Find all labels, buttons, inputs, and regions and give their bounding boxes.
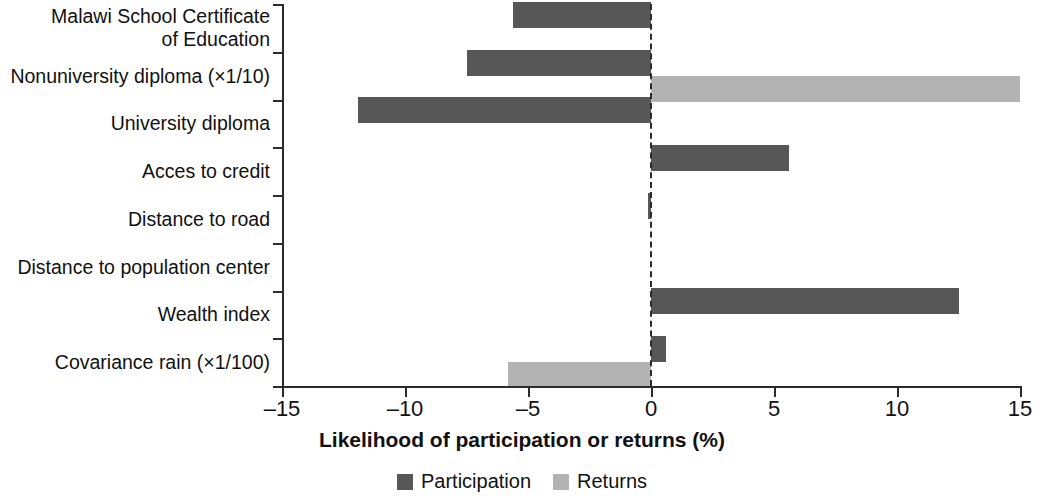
y-axis-category-label: Malawi School Certificate of Education xyxy=(0,5,270,51)
y-axis-category-label: Covariance rain (×1/100) xyxy=(0,351,270,374)
horizontal-bar-chart: Malawi School Certificate of EducationNo… xyxy=(0,0,1044,501)
x-axis-tick-label: 0 xyxy=(645,396,657,422)
x-axis-tick-label: 15 xyxy=(1008,396,1032,422)
x-axis-tick-label: –10 xyxy=(387,396,424,422)
y-axis-category-label: Distance to road xyxy=(0,207,270,230)
bar-returns xyxy=(651,76,1020,102)
x-axis-tick-label: –5 xyxy=(516,396,540,422)
y-axis-tick xyxy=(273,147,282,149)
bar-participation xyxy=(651,336,666,362)
x-axis-title: Likelihood of participation or returns (… xyxy=(0,428,1044,452)
y-axis-category-label: Wealth index xyxy=(0,303,270,326)
legend-swatch-participation xyxy=(397,474,413,490)
bar-participation xyxy=(651,145,789,171)
y-axis-category-label: Distance to population center xyxy=(0,255,270,278)
x-axis-tick-label: –15 xyxy=(264,396,301,422)
y-axis-tick xyxy=(273,386,282,388)
y-axis-category-labels: Malawi School Certificate of EducationNo… xyxy=(0,4,270,386)
x-axis-tick-label: 5 xyxy=(768,396,780,422)
chart-legend: ParticipationReturns xyxy=(0,470,1044,493)
y-axis-tick xyxy=(273,4,282,6)
y-axis-tick xyxy=(273,100,282,102)
bar-participation xyxy=(513,2,651,28)
y-axis-tick xyxy=(273,195,282,197)
y-axis-tick xyxy=(273,338,282,340)
y-axis-category-label: Nonuniversity diploma (×1/10) xyxy=(0,64,270,87)
legend-label: Participation xyxy=(421,470,531,493)
y-axis-tick xyxy=(273,243,282,245)
y-axis-tick xyxy=(273,52,282,54)
legend-swatch-returns xyxy=(553,474,569,490)
legend-entry: Participation xyxy=(397,470,531,493)
bar-returns xyxy=(508,362,651,388)
legend-label: Returns xyxy=(577,470,647,493)
bar-participation xyxy=(467,50,652,76)
bar-participation xyxy=(358,97,651,123)
legend-entry: Returns xyxy=(553,470,647,493)
y-axis-category-label: Acces to credit xyxy=(0,160,270,183)
y-axis-tick xyxy=(273,291,282,293)
y-axis-category-label: University diploma xyxy=(0,112,270,135)
x-axis-tick-label: 10 xyxy=(885,396,909,422)
bar-participation xyxy=(651,288,959,314)
zero-reference-line xyxy=(650,4,652,386)
